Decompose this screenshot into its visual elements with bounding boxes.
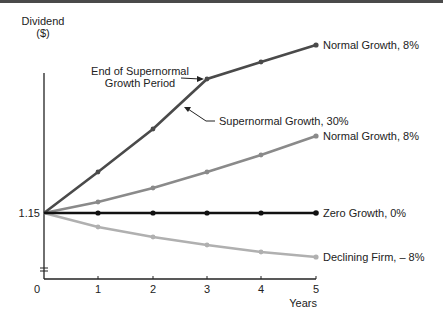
y-tick-label: 1.15 bbox=[19, 207, 40, 219]
x-tick-label: 3 bbox=[204, 283, 210, 295]
dividend-growth-chart: Dividend ($) 0 1 2 3 4 5 Years 1.15 bbox=[0, 0, 443, 328]
annotation-end-of-supernormal: End of Supernormal Growth Period bbox=[91, 65, 204, 89]
svg-text:End of Supernormal: End of Supernormal bbox=[91, 65, 189, 77]
end-label-normal: Normal Growth, 8% bbox=[323, 130, 419, 142]
y-axis-label-line1: Dividend bbox=[22, 15, 65, 27]
x-tick-label: 4 bbox=[258, 283, 264, 295]
series-declining-firm bbox=[44, 213, 319, 260]
y-axis-label-line2: ($) bbox=[36, 27, 49, 39]
x-tick-label: 5 bbox=[313, 283, 319, 295]
end-label-zero: Zero Growth, 0% bbox=[323, 207, 406, 219]
x-axis-label: Years bbox=[289, 297, 317, 309]
end-label-declining: Declining Firm, – 8% bbox=[323, 251, 425, 263]
x-tick-label: 1 bbox=[95, 283, 101, 295]
svg-text:Growth Period: Growth Period bbox=[105, 77, 175, 89]
svg-text:Supernormal Growth, 30%: Supernormal Growth, 30% bbox=[219, 115, 349, 127]
x-tick-label: 2 bbox=[150, 283, 156, 295]
end-label-supernormal: Normal Growth, 8% bbox=[323, 39, 419, 51]
x-tick-label: 0 bbox=[34, 283, 40, 295]
series-zero-growth bbox=[44, 210, 319, 216]
series-normal-growth bbox=[44, 133, 319, 213]
annotation-supernormal-growth: Supernormal Growth, 30% bbox=[184, 107, 349, 127]
